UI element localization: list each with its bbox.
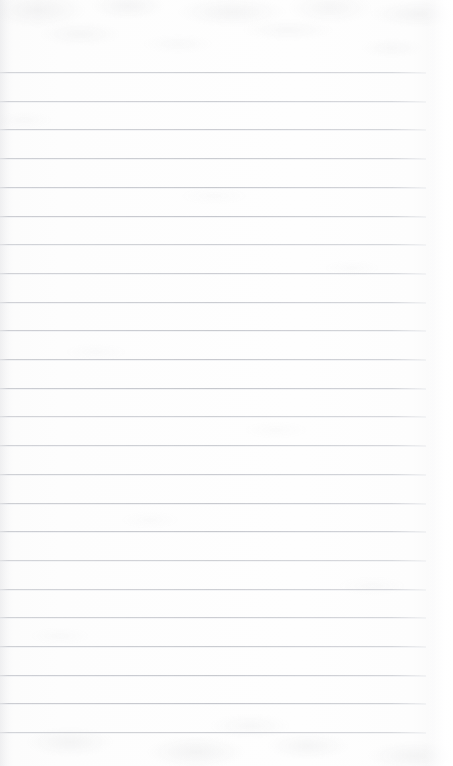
rule-line — [0, 129, 426, 130]
ruled-lines-group — [0, 0, 453, 766]
rule-line — [0, 503, 426, 504]
rule-line — [0, 646, 426, 647]
rule-line — [0, 72, 426, 73]
rule-line — [0, 187, 426, 188]
rule-line — [0, 101, 426, 102]
rule-line — [0, 589, 426, 590]
rule-line — [0, 330, 426, 331]
rule-line — [0, 416, 426, 417]
rule-line — [0, 359, 426, 360]
rule-line — [0, 531, 426, 532]
rule-line — [0, 388, 426, 389]
paper-page — [0, 0, 453, 766]
rule-line — [0, 244, 426, 245]
rule-line — [0, 302, 426, 303]
page-footer-zone — [0, 732, 453, 766]
rule-line — [0, 273, 426, 274]
rule-line — [0, 158, 426, 159]
rule-line — [0, 474, 426, 475]
rule-line — [0, 560, 426, 561]
rule-line — [0, 216, 426, 217]
rule-line — [0, 617, 426, 618]
rule-line — [0, 703, 426, 704]
rule-line — [0, 675, 426, 676]
rule-line — [0, 445, 426, 446]
